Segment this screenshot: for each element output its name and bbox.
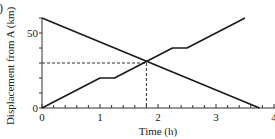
- x-axis-title: Time (h): [139, 125, 178, 138]
- y-tick-label: 0: [33, 102, 39, 114]
- x-tick-label: 4: [271, 111, 275, 123]
- x-tick-label: 2: [155, 111, 161, 123]
- y-axis-title: Displacement from A (km): [4, 7, 17, 126]
- tick-labels: 01234050: [27, 27, 275, 123]
- x-tick-label: 0: [39, 111, 45, 123]
- displacement-time-chart: ) 01234050 Time (h) Displacement from A …: [0, 0, 275, 139]
- y-tick-label: 50: [27, 27, 39, 39]
- panel-label: ): [0, 1, 3, 15]
- x-tick-label: 1: [97, 111, 103, 123]
- x-tick-label: 3: [213, 111, 219, 123]
